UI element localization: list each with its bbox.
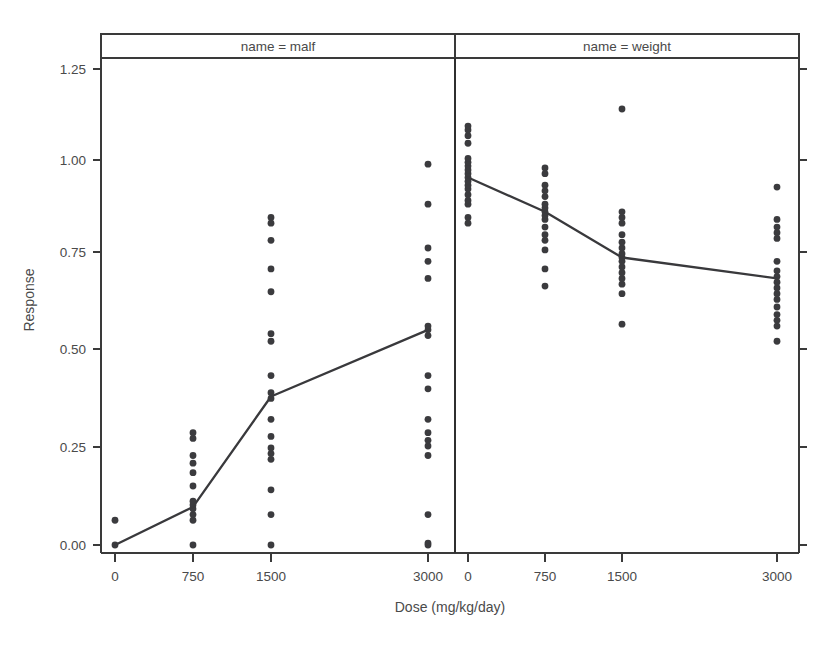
data-point — [774, 267, 781, 274]
data-point — [425, 511, 432, 518]
x-axis-title: Dose (mg/kg/day) — [395, 599, 505, 615]
data-point — [190, 429, 197, 436]
data-point — [268, 486, 275, 493]
data-point — [619, 208, 626, 215]
data-point — [268, 330, 275, 337]
y-axis-title: Response — [21, 268, 37, 331]
data-point — [465, 123, 472, 130]
data-point — [619, 321, 626, 328]
data-point — [542, 165, 549, 172]
strip-label-malf: name = malf — [241, 39, 316, 54]
data-point — [425, 161, 432, 168]
data-point — [542, 246, 549, 253]
data-point — [190, 483, 197, 490]
data-point — [425, 540, 432, 547]
data-point — [465, 155, 472, 162]
data-point — [619, 239, 626, 246]
data-point — [425, 275, 432, 282]
data-point — [268, 372, 275, 379]
data-point — [619, 106, 626, 113]
data-point — [268, 237, 275, 244]
y-tick-label-1-25: 1.25 — [60, 62, 86, 77]
x-tick-label-weight-750: 750 — [534, 569, 557, 584]
data-point — [542, 182, 549, 189]
data-point — [268, 266, 275, 273]
data-point — [425, 258, 432, 265]
y-tick-label-0-25: 0.25 — [60, 440, 86, 455]
x-tick-label-malf-1500: 1500 — [256, 569, 286, 584]
x-tick-label-weight-1500: 1500 — [607, 569, 637, 584]
x-tick-label-malf-0: 0 — [111, 569, 119, 584]
data-point — [268, 511, 275, 518]
strip-label-weight: name = weight — [583, 39, 671, 54]
data-point — [425, 416, 432, 423]
data-point — [190, 469, 197, 476]
y-tick-label-1-00: 1.00 — [60, 153, 86, 168]
data-point — [619, 290, 626, 297]
data-point — [619, 231, 626, 238]
data-point — [268, 445, 275, 452]
data-point — [190, 542, 197, 549]
x-tick-label-malf-3000: 3000 — [413, 569, 443, 584]
data-point — [774, 338, 781, 345]
data-point — [542, 283, 549, 290]
data-point — [268, 288, 275, 295]
data-point — [774, 311, 781, 318]
data-point — [425, 201, 432, 208]
data-point — [542, 266, 549, 273]
data-point — [774, 304, 781, 311]
data-point — [268, 542, 275, 549]
y-tick-label-0-75: 0.75 — [60, 245, 86, 260]
data-point — [268, 214, 275, 221]
data-point — [425, 437, 432, 444]
data-point — [268, 433, 275, 440]
data-point — [268, 338, 275, 345]
x-tick-label-weight-0: 0 — [464, 569, 472, 584]
y-tick-label-0-50: 0.50 — [60, 342, 86, 357]
plot-background — [0, 0, 833, 649]
chart-figure: name = malf name = weight — [0, 0, 833, 649]
data-point — [425, 452, 432, 459]
data-point — [425, 323, 432, 330]
data-point — [774, 184, 781, 191]
data-point — [774, 258, 781, 265]
data-point — [190, 452, 197, 459]
panel-strips: name = malf name = weight — [101, 34, 799, 58]
data-point — [425, 385, 432, 392]
data-point — [190, 460, 197, 467]
data-point — [425, 245, 432, 252]
data-point — [542, 201, 549, 208]
data-point — [542, 231, 549, 238]
data-point — [774, 216, 781, 223]
data-point — [425, 429, 432, 436]
data-point — [465, 214, 472, 221]
dose-response-lattice-plot: name = malf name = weight — [0, 0, 833, 649]
data-point — [542, 224, 549, 231]
data-point — [112, 517, 119, 524]
data-point — [268, 416, 275, 423]
y-tick-label-0-00: 0.00 — [60, 538, 86, 553]
x-tick-label-malf-750: 750 — [182, 569, 205, 584]
data-point — [425, 372, 432, 379]
data-point — [465, 140, 472, 147]
data-point — [774, 224, 781, 231]
x-tick-label-weight-3000: 3000 — [762, 569, 792, 584]
